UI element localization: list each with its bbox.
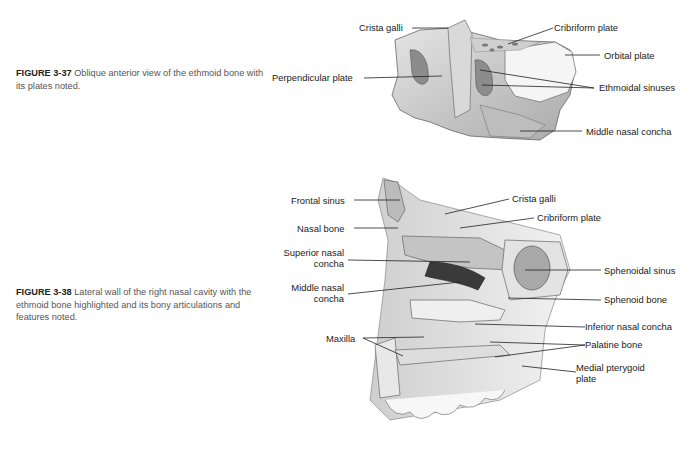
figure-number: FIGURE 3-38 [16,287,72,297]
label-ethmoidal-sinuses: Ethmoidal sinuses [599,82,675,93]
label-medial-pterygoid-plate: Medial pterygoid plate [576,362,645,384]
label-crista-galli: Crista galli [512,193,556,204]
label-sphenoidal-sinus: Sphenoidal sinus [604,265,675,276]
label-inferior-nasal-concha: Inferior nasal concha [585,321,672,332]
label-frontal-sinus: Frontal sinus [291,195,345,206]
label-cribriform-plate: Cribriform plate [554,22,618,33]
label-maxilla: Maxilla [326,333,355,344]
label-perpendicular-plate: Perpendicular plate [272,72,353,83]
figure-number: FIGURE 3-37 [16,68,72,78]
label-palatine-bone: Palatine bone [585,339,642,350]
label-nasal-bone: Nasal bone [297,223,344,234]
label-sphenoid-bone: Sphenoid bone [604,294,667,305]
label-orbital-plate: Orbital plate [604,50,655,61]
label-superior-nasal-concha: Superior nasal concha [278,247,344,269]
label-cribriform-plate: Cribriform plate [537,212,601,223]
figure-3-38-caption: FIGURE 3-38 Lateral wall of the right na… [16,286,266,324]
label-middle-nasal-concha: Middle nasal concha [586,126,671,137]
ethmoid-bone-illustration [392,20,576,140]
label-crista-galli: Crista galli [359,22,403,33]
figure-3-37-caption: FIGURE 3-37 Oblique anterior view of the… [16,67,266,92]
label-middle-nasal-concha: Middle nasal concha [278,282,344,304]
